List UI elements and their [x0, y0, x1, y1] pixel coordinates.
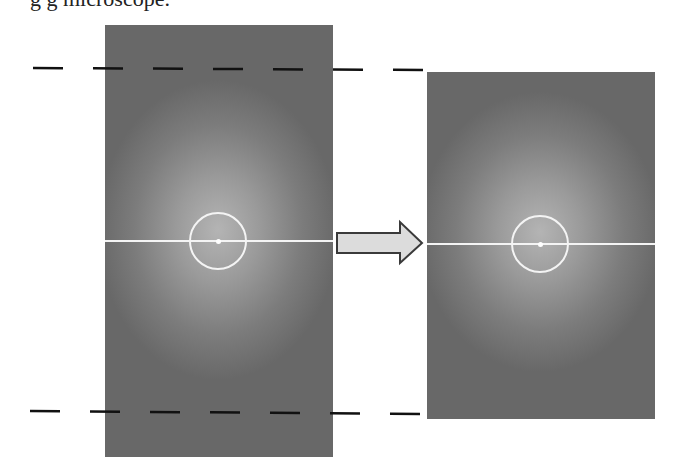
overlay-graphics — [0, 0, 673, 472]
top-crop-boundary-dashed-line — [33, 68, 425, 70]
right-arrow-icon — [337, 222, 422, 263]
bottom-crop-boundary-dashed-line — [30, 411, 425, 414]
